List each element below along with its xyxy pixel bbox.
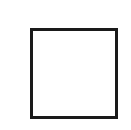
square-interior-area [33,31,115,116]
square-outline-shape [30,28,118,119]
figure-canvas [0,0,131,130]
